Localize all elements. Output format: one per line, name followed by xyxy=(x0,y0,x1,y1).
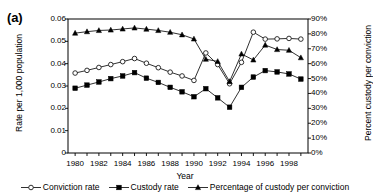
legend-label: Conviction rate xyxy=(43,182,100,192)
legend-item-2: Custody rate xyxy=(109,182,179,192)
legend-label: Percentage of custody per conviction xyxy=(210,182,349,192)
legend-item-3: Percentage of custody per conviction xyxy=(188,182,349,192)
legend-item-1: Conviction rate xyxy=(21,182,100,192)
filled-triangle-marker xyxy=(188,183,208,192)
open-circle-marker xyxy=(29,185,34,190)
x-axis-tick-label: 1998 xyxy=(272,160,306,168)
filled-square-marker xyxy=(116,185,121,190)
filled-square-marker xyxy=(109,183,129,192)
open-circle-marker xyxy=(21,183,41,192)
legend-label: Custody rate xyxy=(131,182,179,192)
chart-legend: Conviction rateCustody ratePercentage of… xyxy=(0,182,370,192)
